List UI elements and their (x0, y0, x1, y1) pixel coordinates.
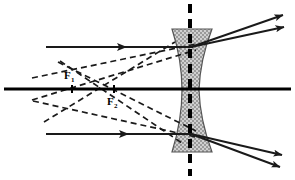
focal-label-f1-group: F 1 (64, 69, 75, 84)
focal-label-f1-subscript: 1 (71, 76, 75, 84)
focal-label-f2: F (107, 95, 114, 107)
optics-diagram-canvas: F 1 F 2 (0, 0, 295, 180)
virtual-extension-lower-to-F2 (58, 62, 196, 131)
focal-label-f2-subscript: 2 (114, 102, 118, 110)
virtual-extension-upper-to-F1 (32, 44, 196, 78)
focal-label-f1: F (64, 69, 71, 81)
focal-label-f2-group: F 2 (107, 95, 118, 110)
optics-figure: F 1 F 2 (0, 0, 295, 180)
virtual-construction-lower-left (44, 42, 175, 122)
